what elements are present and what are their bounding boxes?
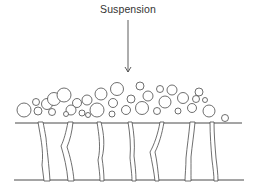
particle [127,95,135,103]
down-arrow-icon [125,20,131,72]
particle [82,95,92,105]
particle [57,88,71,102]
particle [90,103,104,117]
pore [97,122,104,181]
pore [185,122,195,181]
particle [203,105,215,117]
particle [143,91,153,101]
filtration-diagram [0,0,256,190]
particle [193,96,200,103]
pore [150,122,164,181]
particle [175,108,181,114]
particle [154,108,161,115]
particle-layer [17,82,229,122]
particle [122,106,131,115]
particle [17,103,31,117]
particle [136,82,144,90]
particle [195,88,203,96]
pore [61,122,74,181]
particle [86,113,91,118]
particle [167,85,177,95]
particle [34,107,42,115]
particle [157,86,164,93]
particle [64,112,69,117]
pore [38,122,50,181]
particle [111,83,124,96]
particle [109,99,118,108]
particle [79,110,85,116]
particle [95,88,107,100]
particle [222,115,229,122]
pore [128,122,136,181]
particle [178,93,189,104]
particle [188,104,197,113]
particle [33,99,40,106]
particle [73,99,82,108]
particle [159,96,171,108]
particle [49,109,56,116]
particle [109,111,115,117]
pore [210,122,218,181]
particle [136,102,149,115]
membrane-pores [38,122,218,181]
particle [203,98,208,103]
